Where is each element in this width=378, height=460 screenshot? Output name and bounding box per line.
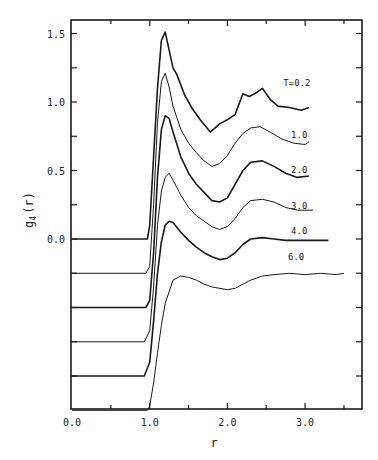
- curve-label: 3.0: [291, 201, 307, 211]
- y-tick-label: 0.5: [47, 166, 65, 177]
- plot-frame: [71, 20, 362, 409]
- curve-t-0-2: [72, 32, 309, 239]
- chart-svg: 0.01.02.03.00.00.51.01.5 T=0.21.02.03.04…: [0, 0, 378, 460]
- svg-text:g4(r): g4(r): [22, 192, 38, 228]
- curves: [72, 32, 344, 410]
- y-axis-title-main: g: [22, 221, 36, 228]
- plot-border: [71, 20, 362, 409]
- curve-label: 2.0: [291, 165, 307, 175]
- y-tick-label: 0.0: [47, 234, 65, 245]
- x-tick-label: 3.0: [296, 417, 314, 428]
- curve-t-4-0: [72, 221, 328, 376]
- x-tick-label: 1.0: [141, 417, 159, 428]
- curve-labels: T=0.21.02.03.04.06.0: [283, 78, 310, 262]
- curve-t-3-0: [72, 173, 313, 342]
- curve-label: 1.0: [291, 130, 307, 140]
- x-axis-title: r: [210, 436, 217, 450]
- curve-label: 6.0: [288, 252, 304, 262]
- y-axis-title-arg: (r): [22, 192, 36, 214]
- y-tick-label: 1.0: [47, 97, 65, 108]
- axis-ticks: 0.01.02.03.00.00.51.01.5: [47, 20, 362, 428]
- y-tick-label: 1.5: [47, 29, 65, 40]
- curve-label: 4.0: [291, 226, 307, 236]
- curve-t-2-0: [72, 116, 309, 308]
- x-tick-label: 2.0: [218, 417, 236, 428]
- y-axis-title-sub: 4: [29, 216, 38, 221]
- x-tick-label: 0.0: [63, 417, 81, 428]
- y-axis-title: g4(r): [22, 192, 38, 228]
- curve-label: T=0.2: [283, 78, 310, 88]
